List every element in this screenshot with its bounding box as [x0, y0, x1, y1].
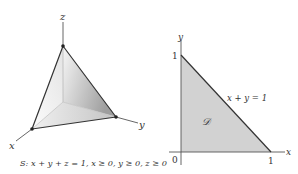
y-tick-one-label: 1	[172, 51, 178, 61]
vertex-y	[114, 115, 118, 119]
origin-label: 0	[172, 155, 178, 165]
region-diagram: y x 1 0 1 x + y = 1 𝒟	[169, 32, 291, 166]
y-axis-label-2d: y	[177, 32, 184, 42]
x-axis	[16, 129, 32, 141]
figure: z x y S: x + y + z = 1, x ≥ 0, y ≥ 0, z …	[0, 0, 298, 174]
line-equation-label: x + y = 1	[227, 93, 267, 103]
vertex-x	[30, 127, 34, 131]
x-tick-one-label: 1	[268, 156, 274, 166]
z-axis-label: z	[59, 11, 66, 22]
x-axis-label-2d: x	[286, 147, 291, 157]
surface-diagram: z x y S: x + y + z = 1, x ≥ 0, y ≥ 0, z …	[9, 11, 167, 168]
vertex-top	[61, 44, 65, 48]
surface-caption: S: x + y + z = 1, x ≥ 0, y ≥ 0, z ≥ 0	[20, 158, 167, 168]
y-axis	[116, 117, 138, 123]
x-axis-label: x	[9, 140, 15, 151]
y-axis-label: y	[138, 119, 145, 130]
